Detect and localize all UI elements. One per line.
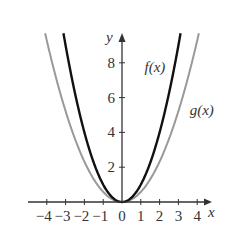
curve-label: g(x) xyxy=(190,102,214,119)
y-tick-label: 2 xyxy=(108,159,116,175)
curve-label: f(x) xyxy=(145,59,166,76)
x-tick-label: −4 xyxy=(36,208,52,224)
x-tick-label: −1 xyxy=(92,208,108,224)
x-axis-label: x xyxy=(207,204,215,220)
x-tick-label: 2 xyxy=(156,208,164,224)
x-tick-label: −2 xyxy=(73,208,89,224)
y-tick-label: 8 xyxy=(108,55,116,71)
parabola-chart: −4−3−2−1012342468 x y f(x)g(x) xyxy=(0,0,234,240)
axes xyxy=(28,33,212,206)
x-tick-label: 3 xyxy=(175,208,183,224)
y-tick-label: 6 xyxy=(108,90,116,106)
y-tick-label: 4 xyxy=(108,124,116,140)
x-tick-label: 4 xyxy=(193,208,201,224)
ticks: −4−3−2−1012342468 xyxy=(36,55,202,224)
x-tick-label: 0 xyxy=(118,208,126,224)
y-axis-arrow-icon xyxy=(119,33,126,42)
x-tick-label: 1 xyxy=(137,208,145,224)
y-axis-label: y xyxy=(104,29,113,45)
x-tick-label: −3 xyxy=(55,208,71,224)
